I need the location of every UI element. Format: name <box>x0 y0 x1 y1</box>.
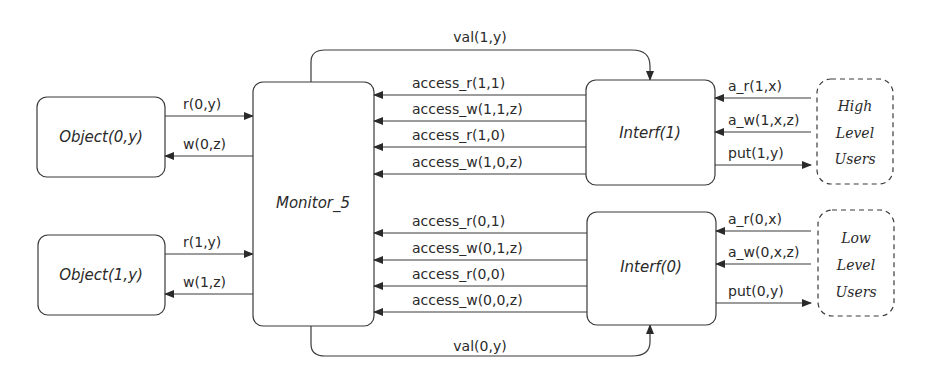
access-low-edges: access_r(0,1) access_w(0,1,z) access_r(0… <box>374 213 587 312</box>
edge-w0: w(0,z) <box>165 136 253 156</box>
monitor-node: Monitor_5 <box>253 82 374 326</box>
access-label: access_w(1,0,z) <box>412 154 523 170</box>
op-label: put(1,y) <box>728 145 784 161</box>
object-1-label: Object(1,y) <box>59 266 143 284</box>
monitor-label: Monitor_5 <box>276 194 350 213</box>
monitor-diagram: Object(0,y) Object(1,y) r(0,y) w(0,z) r(… <box>0 0 932 380</box>
val1-label: val(1,y) <box>453 29 506 45</box>
access-label: access_w(1,1,z) <box>412 101 523 117</box>
interf-0-node: Interf(0) <box>587 212 716 325</box>
object-0-node: Object(0,y) <box>37 97 165 177</box>
w0-label: w(0,z) <box>183 136 226 152</box>
object-1-node: Object(1,y) <box>38 235 165 315</box>
low-user-edges: a_r(0,x) a_w(0,x,z) put(0,y) <box>716 211 811 303</box>
val0-label: val(0,y) <box>453 338 506 354</box>
edge-w1: w(1,z) <box>165 274 253 294</box>
object-0-label: Object(0,y) <box>59 128 143 146</box>
edge-val0: val(0,y) <box>311 325 650 356</box>
access-label: access_r(0,0) <box>412 266 505 282</box>
edge-r0: r(0,y) <box>165 96 253 116</box>
edge-r1: r(1,y) <box>165 234 253 254</box>
op-label: a_w(1,x,z) <box>728 112 799 128</box>
op-label: a_r(0,x) <box>728 211 782 227</box>
access-label: access_w(0,1,z) <box>412 240 523 256</box>
access-label: access_r(0,1) <box>412 213 505 229</box>
op-label: put(0,y) <box>728 283 784 299</box>
interf-0-label: Interf(0) <box>620 258 682 276</box>
r0-label: r(0,y) <box>183 96 221 112</box>
op-label: a_w(0,x,z) <box>728 244 799 260</box>
r1-label: r(1,y) <box>183 234 221 250</box>
high-level-users-node: High Level Users <box>817 79 893 184</box>
users-label: Users <box>834 151 875 167</box>
op-label: a_r(1,x) <box>728 78 782 94</box>
interf-1-node: Interf(1) <box>586 80 715 185</box>
w1-label: w(1,z) <box>183 274 226 290</box>
interf-1-label: Interf(1) <box>619 124 681 142</box>
access-label: access_w(0,0,z) <box>412 292 523 308</box>
access-high-edges: access_r(1,1) access_w(1,1,z) access_r(1… <box>374 75 586 174</box>
high-user-edges: a_r(1,x) a_w(1,x,z) put(1,y) <box>715 78 811 165</box>
users-label: Users <box>835 284 876 300</box>
users-label: Low <box>840 230 871 246</box>
users-label: Level <box>836 257 875 273</box>
access-label: access_r(1,1) <box>412 75 505 91</box>
users-label: High <box>837 98 873 114</box>
low-level-users-node: Low Level Users <box>818 210 894 316</box>
access-label: access_r(1,0) <box>412 127 505 143</box>
users-label: Level <box>835 125 874 141</box>
